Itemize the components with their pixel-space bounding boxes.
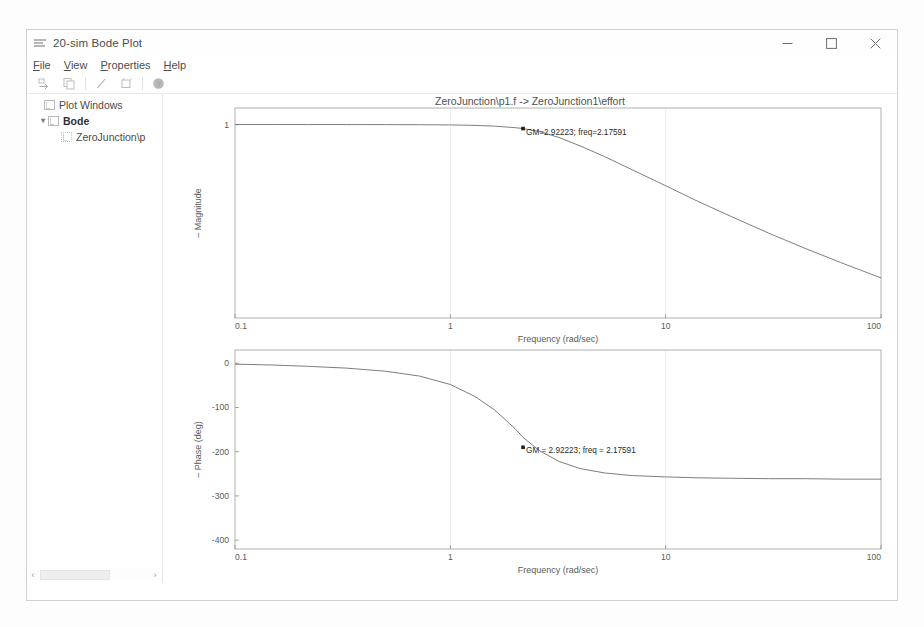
svg-text:-300: -300 [212, 491, 229, 501]
tree-item-zerojunction[interactable]: ZeroJunction\p [27, 129, 162, 145]
help-icon[interactable]: ? [147, 74, 169, 92]
svg-text:– Phase (deg): – Phase (deg) [193, 421, 203, 478]
tree-item-plot-windows-label: Plot Windows [59, 99, 123, 111]
menu-item-file[interactable]: File [33, 59, 51, 71]
svg-text:0.1: 0.1 [235, 321, 247, 331]
chevron-down-icon[interactable]: ▾ [37, 117, 48, 125]
svg-text:-100: -100 [212, 402, 229, 412]
svg-text:0.1: 0.1 [235, 552, 247, 562]
svg-text:1: 1 [448, 321, 453, 331]
svg-text:?: ? [156, 79, 161, 88]
plot-window-icon [48, 116, 59, 126]
svg-text:10: 10 [661, 321, 671, 331]
close-button[interactable] [853, 30, 897, 56]
svg-text:10: 10 [661, 552, 671, 562]
svg-text:100: 100 [867, 321, 882, 331]
svg-text:GM=2.92223; freq=2.17591: GM=2.92223; freq=2.17591 [526, 128, 627, 137]
menu-item-help-label: elp [172, 59, 187, 71]
scroll-right-arrow-icon[interactable]: › [149, 569, 161, 581]
menu-item-help[interactable]: Help [164, 59, 187, 71]
svg-text:-400: -400 [212, 535, 229, 545]
plot-tree-panel: Plot Windows ▾ Bode ZeroJunction\p ‹ › [27, 94, 163, 583]
bode-plot-window: 20-sim Bode Plot File View Properties He… [26, 29, 898, 601]
tree-item-plot-windows[interactable]: Plot Windows [27, 97, 162, 113]
save-icon[interactable] [33, 74, 55, 92]
toolbar-separator [85, 77, 86, 90]
title-bar: 20-sim Bode Plot [27, 30, 897, 56]
screen: 20-sim Bode Plot File View Properties He… [0, 0, 924, 627]
plot-area: ZeroJunction\p1.f -> ZeroJunction1\effor… [163, 94, 897, 583]
menu-bar: File View Properties Help [27, 56, 897, 73]
copy-icon[interactable] [58, 74, 80, 92]
magnitude-plot: 0.11101001Frequency (rad/sec)– Magnitude… [163, 94, 898, 344]
svg-text:-200: -200 [212, 447, 229, 457]
svg-text:Frequency (rad/sec): Frequency (rad/sec) [518, 565, 599, 575]
menu-item-view[interactable]: View [64, 59, 88, 71]
line-tool-icon[interactable] [90, 74, 112, 92]
tree-item-bode-label: Bode [63, 115, 89, 127]
menu-item-file-label: ile [40, 59, 51, 71]
window-title: 20-sim Bode Plot [53, 37, 142, 49]
tree-horizontal-scrollbar[interactable]: ‹ › [27, 568, 161, 581]
svg-text:Frequency (rad/sec): Frequency (rad/sec) [518, 334, 599, 344]
curve-icon [61, 132, 72, 142]
svg-text:1: 1 [224, 120, 229, 130]
zoom-rect-icon[interactable] [115, 74, 137, 92]
menu-item-properties[interactable]: Properties [100, 59, 150, 71]
svg-text:100: 100 [867, 552, 882, 562]
bode-app-icon [34, 37, 48, 49]
menu-item-properties-label: roperties [108, 59, 151, 71]
minimize-button[interactable] [765, 30, 809, 56]
menu-item-view-label: iew [71, 59, 88, 71]
svg-text:– Magnitude: – Magnitude [193, 188, 203, 238]
svg-text:0: 0 [224, 358, 229, 368]
scrollbar-thumb[interactable] [40, 570, 110, 580]
svg-text:GM = 2.92223; freq = 2.17591: GM = 2.92223; freq = 2.17591 [526, 446, 636, 455]
maximize-button[interactable] [809, 30, 853, 56]
tree-item-zerojunction-label: ZeroJunction\p [76, 131, 145, 143]
window-body: Plot Windows ▾ Bode ZeroJunction\p ‹ › [27, 94, 897, 583]
toolbar-separator-2 [142, 77, 143, 90]
scroll-left-arrow-icon[interactable]: ‹ [27, 569, 39, 581]
phase-plot: 0.11101000-100-200-300-400Frequency (rad… [163, 344, 898, 583]
toolbar: ? [27, 73, 897, 94]
svg-text:1: 1 [448, 552, 453, 562]
tree-item-bode[interactable]: ▾ Bode [27, 113, 162, 129]
window-icon [44, 100, 55, 110]
